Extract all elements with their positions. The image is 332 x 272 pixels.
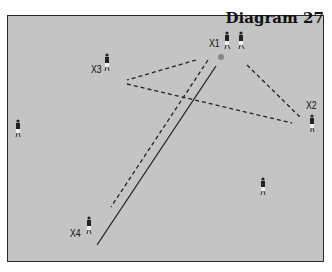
label-x4: X4 xyxy=(70,227,81,239)
label-x2: X2 xyxy=(306,99,317,111)
diagram-lines xyxy=(0,0,332,272)
label-x3: X3 xyxy=(91,63,102,75)
player-icon xyxy=(16,31,314,234)
label-x1: X1 xyxy=(209,37,220,49)
